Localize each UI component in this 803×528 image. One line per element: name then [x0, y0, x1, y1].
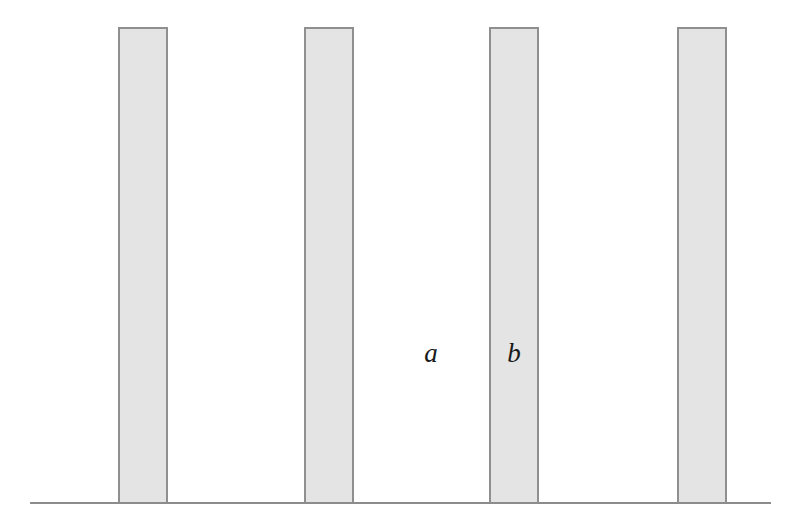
bar-3 — [490, 28, 538, 503]
bar-2 — [305, 28, 353, 503]
bar-4 — [678, 28, 726, 503]
barrier-width-label: b — [507, 338, 521, 368]
figure-canvas: a b — [0, 0, 803, 528]
gap-width-label: a — [424, 338, 438, 368]
bar-1 — [119, 28, 167, 503]
barrier-diagram: a b — [0, 0, 803, 528]
